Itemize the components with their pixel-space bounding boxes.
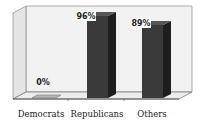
value-label-republicans: 96% (76, 12, 95, 21)
bar-others (142, 25, 163, 98)
bar-others-side (163, 21, 171, 98)
bar-democrats (32, 95, 61, 98)
chart-left-wall (13, 6, 26, 99)
category-label-democrats: Democrats (18, 109, 65, 119)
category-label-republicans: Republicans (71, 109, 124, 119)
bar-republicans-side (108, 12, 116, 98)
bar-chart: 0% 96% 89% Democrats Republicans Others (0, 0, 201, 120)
bar-republicans (87, 16, 108, 98)
value-label-others: 89% (131, 19, 150, 28)
category-label-others: Others (137, 109, 166, 119)
value-label-democrats: 0% (36, 78, 50, 87)
